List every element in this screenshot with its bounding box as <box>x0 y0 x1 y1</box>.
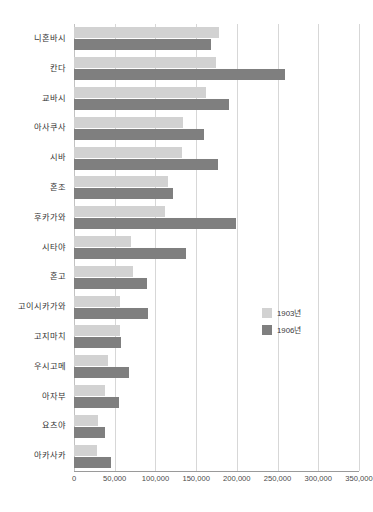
legend-item-1906년[interactable]: 1906년 <box>262 324 301 335</box>
category-label-후카가와: 후카가와 <box>0 213 66 223</box>
bar-1903년-요츠야 <box>74 415 98 426</box>
bar-row <box>74 262 359 292</box>
x-tick-label-150000: 150,000 <box>182 474 209 483</box>
bar-1906년-고이시카가와 <box>74 308 148 319</box>
category-label-칸다: 칸다 <box>0 64 66 74</box>
bar-1903년-고지마치 <box>74 325 120 336</box>
bar-row <box>74 352 359 382</box>
bar-1906년-칸다 <box>74 69 285 80</box>
legend-item-1903년[interactable]: 1903년 <box>262 307 301 318</box>
bar-row <box>74 292 359 322</box>
category-label-아자부: 아자부 <box>0 392 66 402</box>
bar-1903년-혼조 <box>74 176 168 187</box>
bar-1906년-시바 <box>74 159 218 170</box>
category-label-교바시: 교바시 <box>0 94 66 104</box>
bar-1903년-아카사카 <box>74 445 97 456</box>
legend-swatch-icon <box>262 325 272 335</box>
bar-1906년-아사쿠사 <box>74 129 204 140</box>
category-label-아사쿠사: 아사쿠사 <box>0 123 66 133</box>
y-axis-category-labels: 니혼바시칸다교바시아사쿠사시바혼조후카가와시타야혼고고이시카가와고지마치우시고메… <box>0 24 70 471</box>
bar-1906년-아자부 <box>74 397 119 408</box>
category-label-요츠야: 요츠야 <box>0 421 66 431</box>
bar-row <box>74 203 359 233</box>
bar-rows <box>74 24 359 471</box>
bar-row <box>74 113 359 143</box>
legend-label: 1906년 <box>277 324 301 335</box>
category-label-혼조: 혼조 <box>0 183 66 193</box>
bar-1906년-아카사카 <box>74 457 111 468</box>
bar-1906년-요츠야 <box>74 427 105 438</box>
x-tick-label-350000: 350,000 <box>345 474 372 483</box>
bar-row <box>74 173 359 203</box>
bar-1906년-혼고 <box>74 278 147 289</box>
bar-1906년-교바시 <box>74 99 229 110</box>
category-label-시바: 시바 <box>0 153 66 163</box>
bar-1906년-고지마치 <box>74 337 121 348</box>
category-label-시타야: 시타야 <box>0 243 66 253</box>
category-label-고이시카가와: 고이시카가와 <box>0 302 66 312</box>
category-label-아카사카: 아카사카 <box>0 451 66 461</box>
gridline-350000 <box>359 24 360 471</box>
category-label-혼고: 혼고 <box>0 272 66 282</box>
bar-row <box>74 322 359 352</box>
category-label-우시고메: 우시고메 <box>0 362 66 372</box>
category-label-니혼바시: 니혼바시 <box>0 34 66 44</box>
bar-1903년-시타야 <box>74 236 131 247</box>
bar-1903년-니혼바시 <box>74 27 219 38</box>
bar-1906년-시타야 <box>74 248 186 259</box>
plot-area <box>74 24 359 471</box>
legend-swatch-icon <box>262 308 272 318</box>
x-tick-label-200000: 200,000 <box>223 474 250 483</box>
bar-row <box>74 441 359 471</box>
bar-row <box>74 54 359 84</box>
chart-legend: 1903년1906년 <box>262 307 301 335</box>
x-tick-label-50000: 50,000 <box>103 474 126 483</box>
category-label-고지마치: 고지마치 <box>0 332 66 342</box>
bar-1906년-혼조 <box>74 188 173 199</box>
bar-row <box>74 24 359 54</box>
bar-row <box>74 233 359 263</box>
bar-row <box>74 84 359 114</box>
bar-1903년-혼고 <box>74 266 133 277</box>
bar-row <box>74 411 359 441</box>
bar-1903년-아자부 <box>74 385 105 396</box>
x-axis-line <box>74 471 359 472</box>
chart-title <box>0 0 364 6</box>
bar-1903년-칸다 <box>74 57 216 68</box>
legend-label: 1903년 <box>277 307 301 318</box>
x-axis-tick-labels: 050,000100,000150,000200,000250,000300,0… <box>0 474 364 490</box>
bar-1903년-우시고메 <box>74 355 108 366</box>
bar-1906년-우시고메 <box>74 367 129 378</box>
bar-row <box>74 382 359 412</box>
bar-row <box>74 143 359 173</box>
x-tick-label-100000: 100,000 <box>142 474 169 483</box>
x-tick-label-0: 0 <box>72 474 76 483</box>
bar-1903년-고이시카가와 <box>74 296 120 307</box>
x-tick-label-300000: 300,000 <box>305 474 332 483</box>
bar-1903년-아사쿠사 <box>74 117 183 128</box>
bar-1903년-시바 <box>74 147 182 158</box>
bar-1906년-니혼바시 <box>74 39 211 50</box>
bar-1903년-후카가와 <box>74 206 165 217</box>
x-tick-label-250000: 250,000 <box>264 474 291 483</box>
bar-1906년-후카가와 <box>74 218 236 229</box>
bar-1903년-교바시 <box>74 87 206 98</box>
